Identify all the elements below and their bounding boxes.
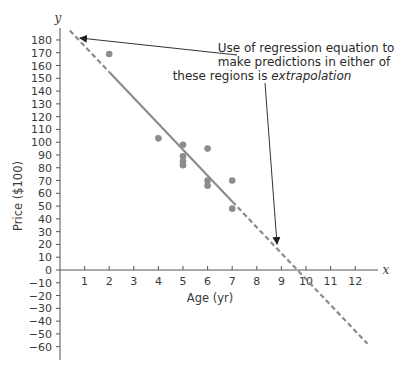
data-point — [180, 141, 187, 148]
y-tick-label: 110 — [31, 123, 52, 136]
x-tick-label: 8 — [253, 275, 260, 288]
y-tick-label: 30 — [38, 226, 52, 239]
x-tick-label: 11 — [324, 275, 338, 288]
arrow-lower-region — [265, 83, 277, 244]
data-point — [106, 51, 113, 58]
annotation-text: Use of regression equation to make predi… — [173, 41, 399, 83]
x-tick-label: 3 — [130, 275, 137, 288]
x-tick-label: 2 — [106, 275, 113, 288]
y-tick-label: −30 — [29, 302, 52, 315]
y-tick-label: 180 — [31, 34, 52, 47]
y-tick-label: 40 — [38, 213, 52, 226]
y-tick-label: 140 — [31, 85, 52, 98]
y-tick-label: 60 — [38, 187, 52, 200]
y-tick-label: 10 — [38, 251, 52, 264]
annotation-line-1: Use of regression equation to — [218, 41, 395, 55]
x-axis-label: Age (yr) — [187, 291, 233, 305]
annotation-line-3-text: these regions is — [173, 69, 272, 83]
x-tick-label: 12 — [348, 275, 362, 288]
y-tick-label: −60 — [29, 341, 52, 354]
regression-line-dashed — [70, 31, 109, 72]
y-tick-label: 90 — [38, 149, 52, 162]
y-axis-ticks: 1801701601501401301201101009080706050403… — [29, 34, 60, 354]
data-point — [180, 162, 187, 169]
x-tick-label: 1 — [81, 275, 88, 288]
regression-line-solid — [109, 72, 232, 201]
x-tick-label: 6 — [204, 275, 211, 288]
y-tick-label: 0 — [45, 264, 52, 277]
y-axis-label: Price ($100) — [11, 161, 25, 231]
arrow-upper-region — [80, 38, 237, 55]
x-axis-ticks: 123456789101112 — [81, 266, 362, 288]
data-point — [204, 182, 211, 189]
y-tick-label: 150 — [31, 72, 52, 85]
scatter-chart: 1801701601501401301201101009080706050403… — [0, 0, 404, 374]
x-tick-label: 7 — [229, 275, 236, 288]
y-tick-label: 80 — [38, 162, 52, 175]
y-tick-label: −40 — [29, 315, 52, 328]
y-tick-label: 160 — [31, 60, 52, 73]
y-tick-label: −20 — [29, 290, 52, 303]
y-tick-label: 130 — [31, 98, 52, 111]
x-tick-label: 4 — [155, 275, 162, 288]
data-point — [155, 135, 162, 142]
y-tick-label: 70 — [38, 175, 52, 188]
data-point — [204, 145, 211, 152]
y-tick-label: −10 — [29, 277, 52, 290]
data-point — [229, 177, 236, 184]
y-tick-label: −50 — [29, 328, 52, 341]
annotation-line-3: these regions is extrapolation — [173, 69, 352, 83]
y-tick-label: 50 — [38, 200, 52, 213]
y-tick-label: 100 — [31, 136, 52, 149]
regression-line-dashed — [232, 201, 367, 343]
y-tick-label: 20 — [38, 238, 52, 251]
y-axis-variable: y — [54, 11, 62, 25]
x-tick-label: 9 — [278, 275, 285, 288]
y-tick-label: 170 — [31, 47, 52, 60]
y-tick-label: 120 — [31, 111, 52, 124]
annotation-line-2: make predictions in either of — [218, 55, 391, 69]
x-tick-label: 10 — [299, 275, 313, 288]
x-tick-label: 5 — [180, 275, 187, 288]
annotation-emphasis: extrapolation — [271, 69, 351, 83]
data-point — [229, 205, 236, 212]
x-axis-variable: x — [383, 263, 390, 277]
